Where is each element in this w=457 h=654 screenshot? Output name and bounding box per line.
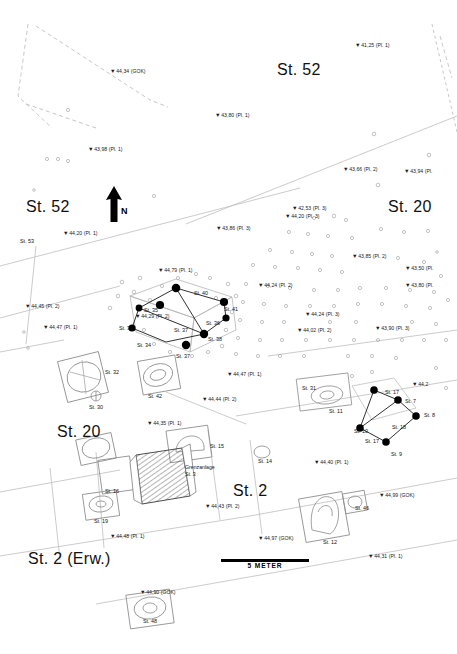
feature-label-st-53: St. 53 (20, 238, 34, 244)
elevation-point: ▼44,97 (GOK) (258, 535, 294, 541)
elevation-triangle-icon: ▼ (405, 265, 411, 271)
elevation-value: 44,47 (Pl. 1) (233, 371, 261, 377)
area-label-st-52: St. 52 (277, 61, 321, 79)
elevation-triangle-icon: ▼ (110, 533, 116, 539)
feature-label-st-35: St. 35 (144, 307, 158, 313)
elevation-triangle-icon: ▼ (343, 166, 349, 172)
elevation-point: ▼44,31 (Pl. 1) (368, 553, 403, 559)
elevation-point: ▼44,02 (Pl. 2) (297, 327, 332, 333)
feature-label-st-32: St. 32 (105, 369, 119, 375)
elevation-triangle-icon: ▼ (110, 68, 116, 74)
elevation-value: 44,20 (Pl. 1) (69, 230, 97, 236)
elevation-point: ▼44,35 (Pl. 1) (147, 420, 182, 426)
elevation-point: ▼44,47 (Pl. 1) (227, 371, 262, 377)
elevation-point: ▼44,90 (GOK) (140, 589, 176, 595)
elevation-triangle-icon: ▼ (292, 205, 298, 211)
feature-label-st-17: St. 17 (385, 389, 399, 395)
elevation-triangle-icon: ▼ (368, 553, 374, 559)
elevation-triangle-icon: ▼ (355, 42, 361, 48)
elevation-point: ▼43,80 (Pl. (405, 282, 434, 288)
elevation-value: 44,24 (Pl. 2) (264, 282, 292, 288)
survey-point-scatter (23, 108, 450, 389)
elevation-value: 43,50 (Pl. (411, 265, 433, 271)
north-arrow-label: N (121, 206, 128, 216)
elevation-point: ▼43,66 (Pl. 2) (343, 166, 378, 172)
feature-label-st-46: St. 46 (355, 505, 369, 511)
feature-label-st-18: St. 18 (392, 424, 406, 430)
elevation-point: ▼43,86 (Pl. 3) (216, 225, 251, 231)
elevation-value: 43,94 (Pl. (410, 168, 432, 174)
feature-label-st-37: St. 37 (176, 353, 190, 359)
elevation-point: ▼43,80 (Pl. 1) (215, 112, 250, 118)
elevation-triangle-icon: ▼ (158, 267, 164, 273)
elevation-value: 44,99 (GOK) (385, 492, 414, 498)
feature-label-st-19: St. 19 (94, 518, 108, 524)
feature-label-st-9: St. 9 (391, 451, 402, 457)
elevation-value: 42,53 (Pl. 3) (298, 205, 326, 211)
feature-label-st-38: St. 38 (208, 336, 222, 342)
elevation-value: 41,25 (Pl. 1) (361, 42, 389, 48)
elevation-value: 43,86 (Pl. 3) (222, 225, 250, 231)
feature-label-st-39: St. 39 (119, 325, 133, 331)
area-label-st-20: St. 20 (57, 423, 101, 441)
elevation-value: 43,85 (Pl. 2) (358, 253, 386, 259)
elevation-value: 44,97 (GOK) (264, 535, 293, 541)
elevation-value: 43,66 (Pl. 2) (349, 166, 377, 172)
elevation-triangle-icon: ▼ (205, 503, 211, 509)
elevation-triangle-icon: ▼ (227, 371, 233, 377)
elevation-point: ▼44,45 (Pl. 2) (25, 303, 60, 309)
elevation-point: ▼44,24 (Pl. 3) (305, 311, 340, 317)
feature-label-st-36: St. 36 (206, 320, 220, 326)
elevation-value: 43,80 (Pl. (411, 282, 433, 288)
feature-label-st-15: St. 15 (210, 443, 224, 449)
elevation-point: ▼43,94 (Pl. (404, 168, 433, 174)
elevation-point: ▼44,40 (Pl. 1) (314, 459, 349, 465)
elevation-point: ▼44,29 (Pl. 2) (135, 313, 170, 319)
feature-label-st-10: St. 10 (354, 428, 368, 434)
elevation-triangle-icon: ▼ (147, 420, 153, 426)
scale-bar-label: 5 METER (221, 562, 309, 569)
elevation-point: ▼44,34 (GOK) (110, 68, 146, 74)
elevation-value: 43,90 (Pl. 3) (381, 325, 409, 331)
elevation-triangle-icon: ▼ (135, 313, 141, 319)
elevation-triangle-icon: ▼ (258, 535, 264, 541)
feature-label-st-12: St. 12 (323, 539, 337, 545)
scale-bar: 5 METER (221, 559, 309, 569)
elevation-triangle-icon: ▼ (405, 282, 411, 288)
elevation-triangle-icon: ▼ (140, 589, 146, 595)
area-label-st-2: St. 2 (233, 482, 267, 500)
elevation-triangle-icon: ▼ (404, 168, 410, 174)
feature-label-st-7: St. 7 (405, 398, 416, 404)
elevation-value: 44,34 (GOK) (116, 68, 145, 74)
map-annotation: St. 3 (185, 471, 196, 478)
structure-east-posts (296, 373, 420, 446)
feature-label-st-17: St. 17 (365, 438, 379, 444)
elevation-point: ▼41,25 (Pl. 1) (355, 42, 390, 48)
elevation-value: 44,24 (Pl. 3) (311, 311, 339, 317)
feature-label-st-37: St. 37 (174, 327, 188, 333)
elevation-triangle-icon: ▼ (216, 225, 222, 231)
elevation-point: ▼43,90 (Pl. 3) (375, 325, 410, 331)
elevation-triangle-icon: ▼ (202, 396, 208, 402)
elevation-triangle-icon: ▼ (379, 492, 385, 498)
elevation-triangle-icon: ▼ (412, 381, 418, 387)
feature-label-st-40: St. 40 (194, 290, 208, 296)
elevation-value: 44,2 (418, 381, 428, 387)
feature-label-st-14: St. 14 (258, 458, 272, 464)
feature-label-st-34: St. 34 (137, 342, 151, 348)
area-label-st-20: St. 20 (388, 198, 432, 216)
map-annotation: Grenzanlage (185, 464, 215, 471)
elevation-point: ▼44,2 (412, 381, 428, 387)
feature-label-st-11: St. 11 (329, 408, 343, 414)
elevation-triangle-icon: ▼ (352, 253, 358, 259)
elevation-point: ▼44,43 (Pl. 2) (205, 503, 240, 509)
elevation-value: 44,31 (Pl. 1) (374, 553, 402, 559)
elevation-point: ▼44,47 (Pl. 1) (43, 324, 78, 330)
elevation-point: ▼44,48 (Pl. 1) (110, 533, 145, 539)
elevation-value: 44,44 (Pl. 2) (208, 396, 236, 402)
elevation-point: ▼44,20 (Pl. 1) (63, 230, 98, 236)
north-arrow: N (104, 182, 138, 224)
elevation-value: 44,48 (Pl. 1) (116, 533, 144, 539)
elevation-value: 44,90 (GOK) (146, 589, 175, 595)
elevation-triangle-icon: ▼ (297, 327, 303, 333)
